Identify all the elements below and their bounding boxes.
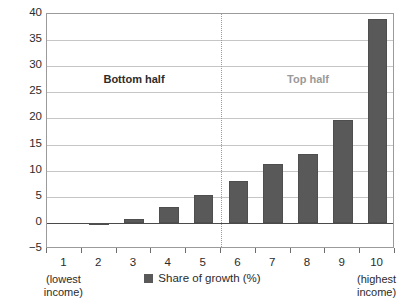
gridline: [47, 40, 393, 41]
legend-label: Share of growth (%): [158, 272, 260, 284]
bar: [263, 164, 282, 223]
x-tick-mark: [220, 248, 221, 253]
x-tick-mark: [394, 248, 395, 253]
bar: [368, 19, 387, 223]
bar: [124, 219, 143, 223]
chart-legend: Share of growth (%): [0, 272, 405, 284]
bar: [229, 181, 248, 223]
bar: [333, 120, 352, 223]
legend-swatch-icon: [144, 274, 153, 283]
bar: [298, 154, 317, 223]
x-tick-mark: [185, 248, 186, 253]
y-tick-label: 30: [2, 59, 42, 70]
bar: [194, 195, 213, 223]
x-tick-mark: [46, 248, 47, 253]
bar: [159, 207, 178, 223]
bar: [89, 223, 108, 226]
x-tick-mark: [359, 248, 360, 253]
y-tick-label: 35: [2, 33, 42, 44]
axis-note-highest-line2: income): [339, 286, 405, 299]
plot-area: Bottom half Top half: [46, 13, 394, 248]
y-axis: −50510152025303540: [0, 0, 42, 303]
chart-figure: −50510152025303540 Bottom half Top half …: [0, 0, 405, 303]
x-tick-mark: [81, 248, 82, 253]
y-tick-label: −5: [2, 242, 42, 253]
y-tick-label: 15: [2, 138, 42, 149]
y-tick-label: 5: [2, 190, 42, 201]
x-tick-label: 10: [357, 256, 397, 268]
x-tick-mark: [116, 248, 117, 253]
half-divider-line: [221, 14, 222, 247]
y-tick-label: 0: [2, 216, 42, 227]
y-tick-label: 10: [2, 164, 42, 175]
x-tick-mark: [255, 248, 256, 253]
y-tick-label: 40: [2, 7, 42, 18]
x-tick-mark: [290, 248, 291, 253]
y-tick-label: 25: [2, 85, 42, 96]
gridline: [47, 92, 393, 93]
x-tick-mark: [324, 248, 325, 253]
axis-note-lowest-line2: income): [25, 286, 101, 299]
annotation-bottom-half: Bottom half: [74, 73, 194, 85]
annotation-top-half: Top half: [248, 73, 368, 85]
y-tick-label: 20: [2, 111, 42, 122]
gridline: [47, 66, 393, 67]
x-tick-mark: [150, 248, 151, 253]
